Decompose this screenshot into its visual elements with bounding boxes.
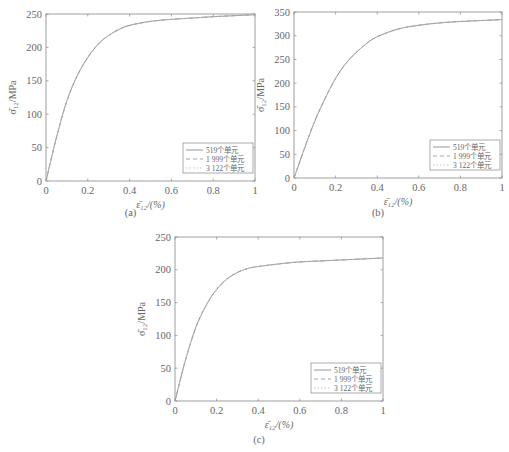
y-tick-label: 0 <box>166 396 171 407</box>
x-tick-label: 0.6 <box>412 182 425 193</box>
y-tick-label: 100 <box>26 109 42 120</box>
y-axis-label: σ̄₁₂/MPa <box>255 77 266 112</box>
chart-panel-b: 00.20.40.60.81050100150200250300350519个单… <box>250 0 509 222</box>
y-tick-label: 100 <box>155 330 171 341</box>
x-tick-label: 0.4 <box>252 405 266 416</box>
x-tick-label: 0.2 <box>329 182 342 193</box>
y-tick-label: 150 <box>26 75 42 86</box>
legend: 519个单元1 999个单元3 122个单元 <box>430 140 500 170</box>
y-axis-label: σ̄₁₂/MPa <box>136 301 147 336</box>
legend-entry: 3 122个单元 <box>453 160 492 170</box>
legend-entry: 1 999个单元 <box>453 151 492 161</box>
y-tick-label: 50 <box>32 142 43 153</box>
legend: 519个单元1 999个单元3 122个单元 <box>183 143 253 173</box>
chart-panel-c: 00.20.40.60.81050100150200250519个单元1 999… <box>130 225 390 452</box>
y-tick-label: 100 <box>274 125 290 136</box>
x-tick-label: 0.8 <box>335 405 348 416</box>
legend-entry: 519个单元 <box>334 365 367 375</box>
chart-panel-a: 00.20.40.60.81050100150200250519个单元1 999… <box>0 0 260 222</box>
x-tick-label: 0.6 <box>293 405 306 416</box>
y-tick-label: 350 <box>274 7 290 18</box>
x-tick-label: 0 <box>172 405 177 416</box>
y-tick-label: 250 <box>274 54 290 65</box>
legend-entry: 519个单元 <box>206 145 239 155</box>
y-tick-label: 250 <box>155 232 171 243</box>
x-tick-label: 0.6 <box>165 185 178 196</box>
chart-svg: 00.20.40.60.81050100150200250300350519个单… <box>250 0 509 222</box>
panel-caption: (a) <box>125 207 137 219</box>
y-tick-label: 200 <box>155 264 171 275</box>
x-tick-label: 1 <box>380 405 385 416</box>
y-tick-label: 50 <box>280 149 291 160</box>
y-tick-label: 300 <box>274 30 290 41</box>
x-axis-label: ε̄₁₂/(%) <box>384 196 413 208</box>
x-axis-label: ε̄₁₂/(%) <box>136 199 165 211</box>
y-axis-label: σ̄₁₂/MPa <box>7 80 18 115</box>
y-tick-label: 250 <box>26 9 42 20</box>
legend-entry: 3 122个单元 <box>206 163 245 173</box>
x-axis-label: ε̄₁₂/(%) <box>265 419 294 431</box>
y-tick-label: 200 <box>274 78 290 89</box>
y-tick-label: 0 <box>37 176 42 187</box>
x-tick-label: 0.4 <box>371 182 385 193</box>
x-tick-label: 0.4 <box>123 185 137 196</box>
chart-svg: 00.20.40.60.81050100150200250519个单元1 999… <box>130 225 390 452</box>
x-tick-label: 0 <box>291 182 296 193</box>
chart-svg: 00.20.40.60.81050100150200250519个单元1 999… <box>0 0 260 222</box>
legend-entry: 1 999个单元 <box>206 154 245 164</box>
panel-caption: (c) <box>253 434 265 446</box>
x-tick-label: 0.8 <box>207 185 220 196</box>
y-tick-label: 200 <box>26 42 42 53</box>
x-tick-label: 0.8 <box>454 182 467 193</box>
y-tick-label: 150 <box>274 101 290 112</box>
legend-entry: 3 122个单元 <box>334 383 373 393</box>
x-tick-label: 0.2 <box>81 185 94 196</box>
legend-entry: 519个单元 <box>453 142 486 152</box>
legend: 519个单元1 999个单元3 122个单元 <box>311 363 381 393</box>
y-tick-label: 150 <box>155 297 171 308</box>
y-tick-label: 50 <box>161 363 172 374</box>
x-tick-label: 0 <box>43 185 48 196</box>
x-tick-label: 0.2 <box>210 405 223 416</box>
y-tick-label: 0 <box>285 173 290 184</box>
legend-entry: 1 999个单元 <box>334 374 373 384</box>
panel-caption: (b) <box>372 207 385 219</box>
x-tick-label: 1 <box>499 182 504 193</box>
